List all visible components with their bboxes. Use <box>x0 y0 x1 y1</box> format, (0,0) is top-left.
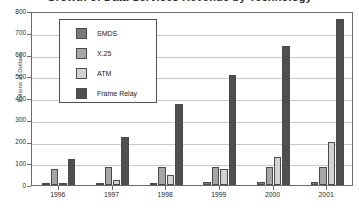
legend-swatch-icon <box>76 48 87 59</box>
y-axis-tick-label: 600 <box>0 52 26 58</box>
chart-legend: SMDSX.25ATMFrame Relay <box>59 19 157 103</box>
y-axis-tick-label: 300 <box>0 117 26 123</box>
y-axis-tick-label: 100 <box>0 161 26 167</box>
legend-item-label: X.25 <box>97 49 111 59</box>
bar-x-25-2001 <box>319 167 327 185</box>
x-axis-tick-label: 2000 <box>251 192 295 199</box>
legend-item-label: SMDS <box>97 29 117 39</box>
y-axis-tick-label: 800 <box>0 9 26 15</box>
x-axis-tick <box>219 186 220 190</box>
y-axis-tick-label: 0 <box>0 183 26 189</box>
x-axis-tick-label: 1998 <box>143 192 187 199</box>
x-axis-tick-label: 2001 <box>304 192 348 199</box>
x-axis-tick <box>273 186 274 190</box>
bar-atm-2001 <box>328 142 336 185</box>
bar-smds-2001 <box>311 182 319 185</box>
chart-figure: Growth of Data Services Revenue by Techn… <box>0 0 359 217</box>
legend-swatch-icon <box>76 28 87 39</box>
legend-swatch-icon <box>76 88 87 99</box>
x-axis-tick <box>58 186 59 190</box>
x-axis-tick <box>326 186 327 190</box>
y-axis-tick-label: 500 <box>0 74 26 80</box>
bar-frame-relay-2001 <box>336 19 344 185</box>
y-axis-tick-label: 700 <box>0 30 26 36</box>
legend-swatch-icon <box>76 68 87 79</box>
legend-item-label: ATM <box>97 69 111 79</box>
chart-title: Growth of Data Services Revenue by Techn… <box>0 0 359 3</box>
legend-item-label: Frame Relay <box>97 89 137 99</box>
x-axis-tick <box>165 186 166 190</box>
x-axis-tick <box>112 186 113 190</box>
y-axis-tick-label: 400 <box>0 96 26 102</box>
y-axis-tick-label: 200 <box>0 139 26 145</box>
x-axis-tick-label: 1997 <box>90 192 134 199</box>
x-axis-tick-label: 1999 <box>197 192 241 199</box>
x-axis-tick-label: 1996 <box>36 192 80 199</box>
y-axis-tick <box>27 186 31 187</box>
